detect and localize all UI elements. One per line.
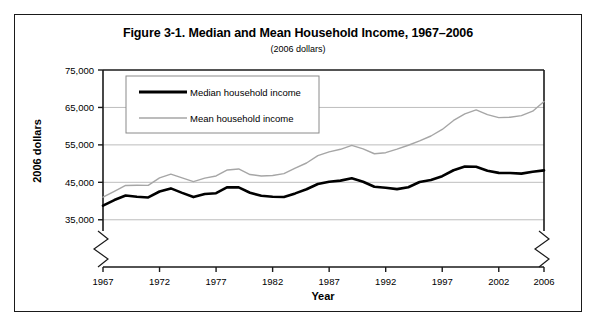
x-axis: 196719721977198219871992199720022006 xyxy=(92,267,554,287)
x-axis-tick-label: 1987 xyxy=(319,276,340,287)
x-axis-tick-label: 1977 xyxy=(206,276,227,287)
right-axis xyxy=(535,70,549,267)
y-axis-tick-labels: 35,00045,00055,00065,00075,000 xyxy=(65,65,94,226)
x-axis-tick-label: 2002 xyxy=(488,276,509,287)
income-line-chart: 35,00045,00055,00065,00075,000 196719721… xyxy=(15,15,583,313)
y-axis-tick-label: 75,000 xyxy=(65,65,94,76)
x-axis-tick-label: 1982 xyxy=(262,276,283,287)
y-axis-break-icon xyxy=(94,231,108,267)
median-household-income-line xyxy=(103,166,544,205)
x-axis-title: Year xyxy=(311,290,335,302)
y-axis-tick-label: 45,000 xyxy=(65,177,94,188)
x-axis-tick-label: 1992 xyxy=(375,276,396,287)
legend-median-label: Median household income xyxy=(190,87,301,98)
x-axis-tick-labels: 196719721977198219871992199720022006 xyxy=(92,276,554,287)
right-axis-break-icon xyxy=(535,231,549,267)
legend-box xyxy=(126,76,319,133)
figure-frame: Figure 3-1. Median and Mean Household In… xyxy=(14,14,582,312)
legend: Median household income Mean household i… xyxy=(126,76,319,133)
x-axis-tick-label: 1972 xyxy=(149,276,170,287)
x-axis-tick-label: 1967 xyxy=(92,276,113,287)
x-axis-tick-label: 2006 xyxy=(533,276,554,287)
y-axis-tick-label: 55,000 xyxy=(65,139,94,150)
y-axis: 35,00045,00055,00065,00075,000 xyxy=(65,65,108,268)
legend-mean-label: Mean household income xyxy=(190,113,294,124)
y-axis-title: 2006 dollars xyxy=(31,119,43,183)
y-axis-tick-label: 65,000 xyxy=(65,102,94,113)
y-axis-tick-label: 35,000 xyxy=(65,214,94,225)
x-axis-tick-label: 1997 xyxy=(432,276,453,287)
